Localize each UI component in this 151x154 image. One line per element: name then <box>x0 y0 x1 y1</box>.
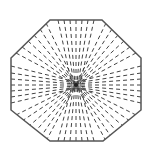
octagon-diagram <box>0 0 151 154</box>
octagon-outline <box>11 20 141 141</box>
center-point <box>74 83 78 87</box>
